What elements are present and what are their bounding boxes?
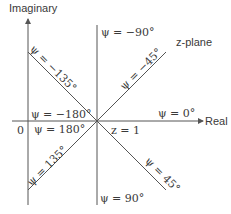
origin-label: 0 — [17, 125, 24, 136]
imaginary-axis-label: Imaginary — [9, 3, 57, 14]
angle-label-minus-180: ψ = −180° — [31, 109, 92, 120]
real-axis-label: Real — [205, 116, 228, 127]
angle-label-90: ψ = 90° — [100, 193, 144, 204]
plane-title: z-plane — [176, 37, 212, 48]
center-label: z = 1 — [111, 125, 140, 136]
angle-label-180: ψ = 180° — [34, 124, 85, 135]
angle-label-0: ψ = 0° — [158, 108, 195, 119]
angle-label-minus-90: ψ = −90° — [101, 27, 155, 38]
